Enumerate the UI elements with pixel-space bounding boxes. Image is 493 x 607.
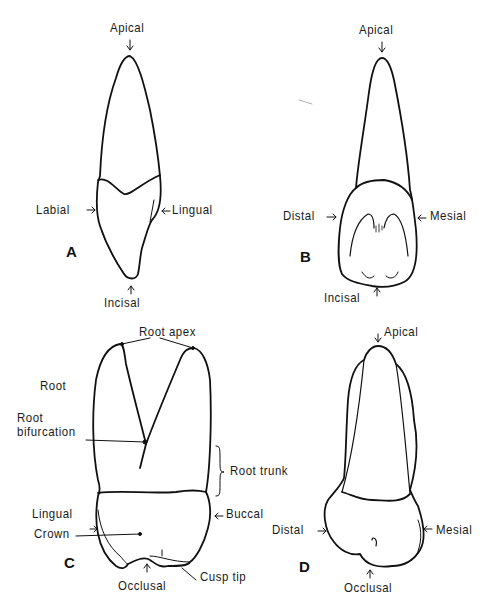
panel-b-incisal-label: Incisal: [324, 290, 360, 305]
stray-mark: [299, 100, 312, 104]
panel-a-apical-label: Apical: [110, 20, 144, 35]
panel-c-letter: C: [64, 554, 75, 571]
tooth-d-outline: [325, 346, 424, 567]
tooth-d-arrows: [318, 334, 432, 578]
panel-c-crown-label: Crown: [34, 526, 70, 541]
panel-d-distal-label: Distal: [272, 522, 304, 537]
panel-c-lingual-label: Lingual: [32, 506, 73, 521]
tooth-b-outline: [339, 58, 417, 287]
tooth-a-outline: [97, 56, 161, 279]
panel-c-root-label: Root: [40, 378, 66, 393]
panel-d-occlusal-label: Occlusal: [344, 580, 392, 595]
panel-b-apical-label: Apical: [359, 22, 393, 37]
panel-c-buccal-label: Buccal: [226, 506, 264, 521]
tooth-a-arrows: [87, 40, 170, 294]
panel-a-letter: A: [66, 243, 77, 260]
panel-c-root-apex-label: Root apex: [139, 324, 196, 339]
tooth-b-arrows: [327, 42, 426, 296]
panel-b-distal-label: Distal: [283, 208, 315, 223]
panel-a-incisal-label: Incisal: [104, 295, 140, 310]
panel-b-mesial-label: Mesial: [430, 208, 466, 223]
panel-a-lingual-label: Lingual: [172, 202, 213, 217]
panel-d-mesial-label: Mesial: [436, 522, 472, 537]
panel-c-root-bifurcation-label-1: Root: [17, 410, 43, 425]
panel-a-labial-label: Labial: [36, 202, 70, 217]
panel-c-occlusal-label: Occlusal: [118, 578, 166, 593]
panel-d-letter: D: [299, 558, 310, 575]
panel-b-letter: B: [300, 248, 311, 265]
panel-c-cusp-tip-label: Cusp tip: [200, 569, 246, 584]
panel-c-root-trunk-label: Root trunk: [230, 463, 288, 478]
panel-d-apical-label: Apical: [384, 324, 418, 339]
panel-c-root-bifurcation-label-2: bifurcation: [17, 424, 76, 439]
